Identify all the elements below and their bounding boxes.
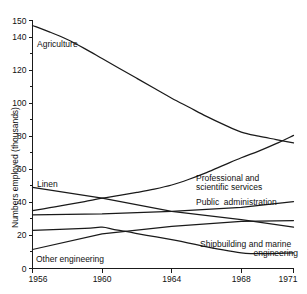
y-tick-label: 150 (12, 16, 26, 26)
y-axis-title: Numbers employed (thousands) (10, 107, 20, 228)
series-label-other-engineering: Other engineering (36, 255, 104, 265)
series-label-linen: Linen (37, 180, 58, 190)
axes (33, 20, 294, 269)
y-tick-label: 0 (22, 264, 27, 274)
series-label-shipbuilding-line2: engineering (200, 249, 298, 259)
x-tick-label: 1971 (279, 274, 298, 284)
series-label-public-administration: Public administration (196, 198, 277, 208)
y-tick-label: 140 (12, 32, 26, 42)
axis-ticks (29, 21, 294, 273)
y-tick-label: 120 (12, 65, 26, 75)
line-chart: 0204060801001201401501956196019641968197… (0, 0, 307, 294)
y-tick-label: 20 (17, 230, 27, 240)
x-tick-label: 1968 (232, 274, 251, 284)
x-tick-label: 1964 (162, 274, 181, 284)
series-label-agriculture: Agriculture (37, 40, 78, 50)
data-series (33, 25, 294, 253)
x-tick-label: 1960 (93, 274, 112, 284)
x-tick-label: 1956 (29, 274, 48, 284)
series-label-professional-line2: scientific services (196, 183, 262, 193)
